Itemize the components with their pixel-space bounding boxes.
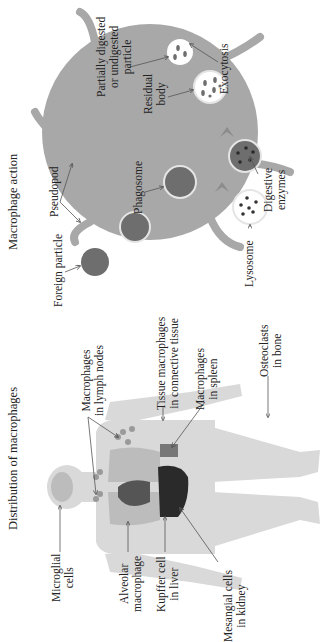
label-tissue-macrophages: Tissue macrophages in connective tissue [155, 317, 181, 410]
label-phagosome: Phagosome [132, 161, 145, 214]
heart-region [118, 480, 150, 506]
right-panel-title: Macrophage action [6, 154, 21, 250]
label-pseudopod: Pseudopod [48, 167, 61, 217]
digestive-enzyme-vesicle [229, 140, 261, 172]
label-lysosome: Lysosome [243, 240, 256, 287]
spleen [160, 444, 178, 457]
label-lymph-nodes: Macrophages in lymph nodes [80, 345, 106, 416]
exocytosed-particle [167, 39, 193, 65]
label-osteoclasts: Osteoclasts in bone [258, 325, 284, 377]
macrophage-figure: Distribution of macrophages Macrophage a… [0, 0, 325, 642]
label-foreign-particle: Foreign particle [52, 234, 65, 307]
foreign-particle [81, 248, 109, 276]
brain-region [51, 472, 73, 502]
label-alveolar-macrophage: Alveolar macrophage [118, 556, 144, 612]
label-partially-digested: Partially digested or undigested particl… [95, 17, 134, 97]
label-digestive-enzymes: Digestive enzymes [262, 168, 288, 212]
phagosome [164, 166, 196, 198]
engulfed-particle [120, 212, 150, 242]
label-exocytosis: Exocytosis [218, 44, 231, 94]
label-microglial-cells: Microglial cells [50, 553, 76, 602]
label-residual-body: Residual body [142, 74, 168, 114]
label-kupffer-cell: Kupffer cell in liver [155, 556, 181, 612]
label-spleen-macrophages: Macrophages in spleen [194, 348, 220, 410]
left-panel-title: Distribution of macrophages [6, 387, 21, 530]
label-mesangial-cells: Mesangial cells in kidney [222, 570, 248, 642]
